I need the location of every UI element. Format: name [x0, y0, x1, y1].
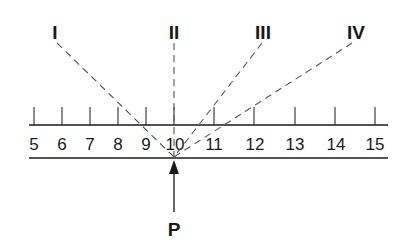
scale-number: 15: [366, 135, 385, 154]
scale-number: 7: [85, 135, 94, 154]
scale-number: 14: [327, 135, 346, 154]
arrow-up-icon: [169, 160, 179, 174]
point-label-P: P: [168, 219, 181, 240]
ray-label-II: II: [169, 22, 180, 43]
scale-number: 13: [286, 135, 305, 154]
ray-label-III: III: [255, 22, 271, 43]
ray-label-I: I: [52, 22, 57, 43]
scale-number: 11: [205, 135, 223, 154]
scale-numbers: 5 6 7 8 9 10 11 12 13 14 15: [29, 135, 384, 154]
scale-number: 8: [113, 135, 122, 154]
diagram: 5 6 7 8 9 10 11 12 13 14 15 I II III IV …: [0, 0, 404, 248]
ray-scale-diagram: 5 6 7 8 9 10 11 12 13 14 15 I II III IV …: [0, 0, 404, 248]
scale-number: 9: [141, 135, 150, 154]
scale-number: 10: [166, 135, 185, 154]
scale-number: 6: [57, 135, 66, 154]
scale-number: 12: [246, 135, 265, 154]
ray-label-IV: IV: [347, 22, 365, 43]
scale-ticks: [34, 107, 375, 125]
scale-number: 5: [29, 135, 38, 154]
